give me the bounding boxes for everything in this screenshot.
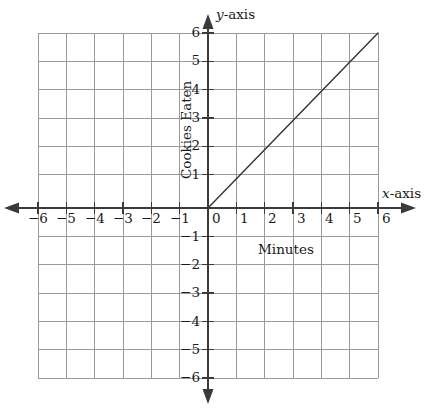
x-axis-title-suffix: -axis bbox=[390, 185, 421, 201]
x-tick-label-4: 4 bbox=[325, 212, 334, 226]
coordinate-plane-figure: −6 −5 −4 −3 −2 −1 0 1 2 3 4 5 6 6 5 4 3 … bbox=[0, 0, 429, 414]
x-tick-label-6: 6 bbox=[382, 212, 391, 226]
y-tick-label-neg6: −6 bbox=[166, 371, 200, 385]
x-tick-label-neg6: −6 bbox=[27, 212, 49, 226]
y-tick-label-neg5: −5 bbox=[166, 343, 200, 357]
x-tick-label-3: 3 bbox=[297, 212, 306, 226]
x-quantity-label: Minutes bbox=[258, 243, 314, 257]
x-tick-label-neg3: −3 bbox=[112, 212, 134, 226]
graph-canvas bbox=[0, 0, 429, 414]
x-axis-arrow-right bbox=[401, 203, 416, 214]
x-axis-title: x-axis bbox=[382, 187, 421, 201]
y-tick-label-neg1: −1 bbox=[166, 230, 200, 244]
y-axis-arrow-down bbox=[203, 389, 214, 404]
x-tick-label-2: 2 bbox=[268, 212, 277, 226]
y-axis-arrow-up bbox=[203, 14, 214, 29]
y-tick-label-neg3: −3 bbox=[166, 286, 200, 300]
x-tick-label-5: 5 bbox=[353, 212, 362, 226]
y-tick-label-neg2: −2 bbox=[166, 258, 200, 272]
y-axis-title: y-axis bbox=[216, 8, 255, 22]
x-tick-label-neg4: −4 bbox=[84, 212, 106, 226]
y-axis bbox=[202, 14, 214, 404]
x-axis-title-variable: x bbox=[382, 185, 390, 201]
y-tick-label-neg4: −4 bbox=[166, 315, 200, 329]
y-axis-title-variable: y bbox=[216, 6, 224, 22]
x-tick-label-1: 1 bbox=[240, 212, 249, 226]
x-tick-label-neg5: −5 bbox=[55, 212, 77, 226]
y-quantity-label: Cookies Eaten bbox=[180, 81, 194, 179]
y-tick-label-5: 5 bbox=[168, 54, 200, 68]
x-tick-label-zero: 0 bbox=[212, 212, 221, 226]
y-axis-title-suffix: -axis bbox=[224, 6, 255, 22]
x-tick-label-neg2: −2 bbox=[140, 212, 162, 226]
x-tick-label-neg1: −1 bbox=[169, 212, 191, 226]
y-tick-label-6: 6 bbox=[168, 26, 200, 40]
x-axis-arrow-left bbox=[4, 203, 19, 214]
